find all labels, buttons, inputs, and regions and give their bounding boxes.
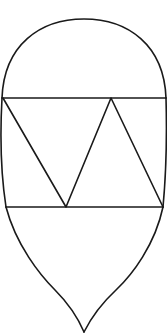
dome-arc <box>2 19 166 98</box>
band-left-side <box>1 98 6 207</box>
base-right-curve <box>84 207 163 332</box>
base-left-curve <box>6 207 84 332</box>
shield-diagram <box>0 0 167 335</box>
triangle-zigzag <box>3 98 163 207</box>
band-right-side <box>163 98 166 207</box>
